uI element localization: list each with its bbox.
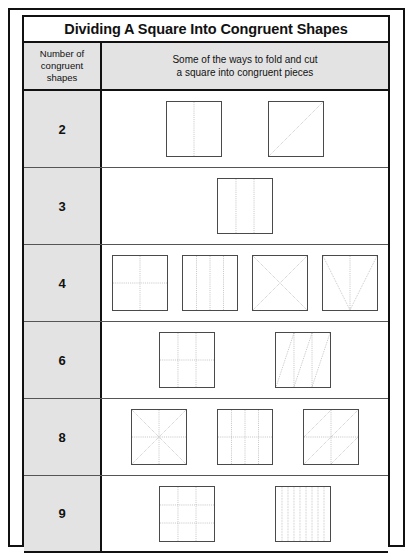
header-count-line3: shapes <box>40 72 84 84</box>
row-diagrams <box>102 245 388 321</box>
row-count-cell: 9 <box>24 476 102 551</box>
row-diagrams <box>102 399 388 475</box>
header-cell-description: Some of the ways to fold and cut a squar… <box>102 43 388 89</box>
table-row: 4 <box>24 245 388 322</box>
row-count-value: 9 <box>58 506 65 521</box>
table-title-row: Dividing A Square Into Congruent Shapes <box>24 17 388 43</box>
row-diagrams <box>102 168 388 244</box>
square-diagonal-x <box>252 255 308 311</box>
square-eight-triangles <box>131 409 187 465</box>
table-row: 3 <box>24 168 388 245</box>
row-count-cell: 3 <box>24 168 102 244</box>
square-quadrant-diagonals <box>303 409 359 465</box>
row-count-value: 8 <box>58 430 65 445</box>
row-count-cell: 4 <box>24 245 102 321</box>
table-row: 9 <box>24 476 388 553</box>
square-v-fold <box>322 255 378 311</box>
table-body: 234689 <box>24 91 388 553</box>
table-row: 2 <box>24 91 388 168</box>
header-count-line1: Number of <box>40 48 84 60</box>
row-diagrams <box>102 91 388 167</box>
square-slanted-triangles <box>275 332 331 388</box>
row-count-cell: 2 <box>24 91 102 167</box>
square-vertical-thirds <box>217 178 273 234</box>
table-row: 8 <box>24 399 388 476</box>
row-count-value: 2 <box>58 122 65 137</box>
worksheet-page: Dividing A Square Into Congruent Shapes … <box>0 0 413 555</box>
square-grid-3x2 <box>159 332 215 388</box>
square-quadrant-cross <box>112 255 168 311</box>
row-count-value: 6 <box>58 353 65 368</box>
page-title: Dividing A Square Into Congruent Shapes <box>64 21 347 37</box>
square-vertical-ninths <box>275 486 331 542</box>
header-description-label: Some of the ways to fold and cut a squar… <box>172 53 317 79</box>
square-vertical-half <box>166 101 222 157</box>
square-vertical-quarters <box>182 255 238 311</box>
row-count-value: 4 <box>58 276 65 291</box>
header-count-label: Number of congruent shapes <box>40 48 84 84</box>
header-cell-count: Number of congruent shapes <box>24 43 102 89</box>
row-count-value: 3 <box>58 199 65 214</box>
row-count-cell: 6 <box>24 322 102 398</box>
header-count-line2: congruent <box>40 60 84 72</box>
header-description-line1: Some of the ways to fold and cut <box>172 53 317 66</box>
congruent-shapes-table: Dividing A Square Into Congruent Shapes … <box>22 15 390 545</box>
row-diagrams <box>102 322 388 398</box>
square-grid-3x3 <box>159 486 215 542</box>
row-diagrams <box>102 476 388 551</box>
header-description-line2: a square into congruent pieces <box>172 66 317 79</box>
square-vertical-quarters-halved <box>217 409 273 465</box>
table-row: 6 <box>24 322 388 399</box>
row-count-cell: 8 <box>24 399 102 475</box>
square-diagonal-half <box>268 101 324 157</box>
table-header-row: Number of congruent shapes Some of the w… <box>24 43 388 91</box>
